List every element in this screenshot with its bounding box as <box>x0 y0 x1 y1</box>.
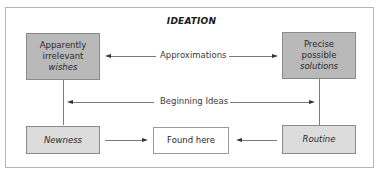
arrow-right-icon <box>309 100 315 104</box>
diagram-title: IDEATION <box>0 16 383 26</box>
arrow-right-icon <box>272 54 278 58</box>
box-text-line: Precise <box>304 39 334 50</box>
box-routine: Routine <box>282 125 356 154</box>
box-text-line: possible <box>302 50 337 61</box>
arrow-right-icon <box>142 138 148 142</box>
box-newness: Newness <box>26 126 100 154</box>
connector-label-beginning-ideas: Beginning Ideas <box>160 96 228 106</box>
arrow-left-icon <box>236 138 242 142</box>
box-text-line: irrelevant <box>43 51 84 62</box>
box-text-line: wishes <box>49 62 78 73</box>
box-found-here: Found here <box>153 127 229 154</box>
arrow-left-icon <box>67 100 73 104</box>
box-precise-possible-solutions: Precise possible solutions <box>282 32 356 79</box>
connector-line <box>110 56 156 57</box>
connector-line <box>105 140 142 141</box>
connector-line <box>72 102 154 103</box>
connector-line-vertical <box>319 79 320 125</box>
connector-line <box>229 56 273 57</box>
box-text-line: solutions <box>300 61 338 72</box>
connector-label-approximations: Approximations <box>160 50 226 60</box>
arrow-left-icon <box>105 54 111 58</box>
connector-line <box>242 140 277 141</box>
connector-line <box>230 102 310 103</box>
box-apparently-irrelevant-wishes: Apparently irrelevant wishes <box>26 33 100 80</box>
box-text-line: Apparently <box>40 40 86 51</box>
connector-line-vertical <box>63 80 64 125</box>
